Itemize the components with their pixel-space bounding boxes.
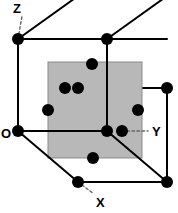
atom-face-left [42, 104, 54, 116]
lattice-drawing [0, 0, 178, 213]
atom-corner-front-top-right [101, 33, 113, 45]
lattice-figure: Z O Y X [0, 0, 178, 213]
cube-edge-diag-top-right [107, 0, 167, 39]
axis-label-x: X [96, 196, 105, 209]
atom-corner-back-bottom-right [161, 176, 173, 188]
atom-face-right [132, 104, 144, 116]
atom-face-upper-left [59, 82, 71, 94]
atom-corner-front-bottom-right [101, 125, 113, 137]
atom-corner-origin [12, 125, 24, 137]
atom-face-top [86, 58, 98, 70]
atom-corner-back-bottom-left [72, 176, 84, 188]
atom-face-bottom [87, 152, 99, 164]
atom-corner-back-right-top [161, 82, 173, 94]
atom-face-center-upper [72, 82, 84, 94]
shaded-lattice-plane [48, 62, 142, 158]
atom-face-y-side [116, 125, 128, 137]
axis-label-y: Y [152, 125, 161, 138]
axis-label-z: Z [13, 2, 21, 15]
axis-label-origin: O [1, 127, 11, 140]
atom-corner-front-top-left [12, 33, 24, 45]
cube-edge-diag-top-left [18, 0, 78, 39]
